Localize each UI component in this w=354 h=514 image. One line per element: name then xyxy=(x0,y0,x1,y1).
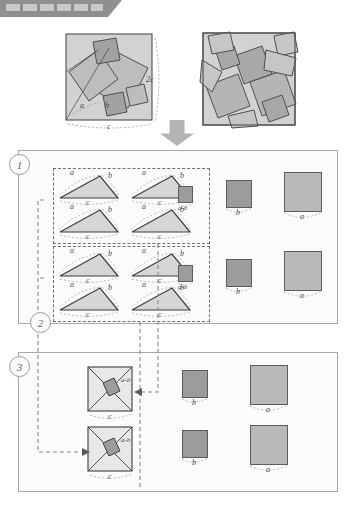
label-a: a xyxy=(266,466,270,474)
label-a: a xyxy=(70,203,74,211)
label-b: b xyxy=(108,284,112,292)
label-a: a xyxy=(70,247,74,255)
label-a: a xyxy=(70,169,74,177)
dissected-square-diagram: 2c c a b xyxy=(60,30,160,130)
label-b: b xyxy=(180,250,184,258)
label-b: b xyxy=(192,459,196,467)
label-b: b xyxy=(108,206,112,214)
label-b: b xyxy=(180,172,184,180)
label-a: a xyxy=(300,213,304,221)
label-leg-a: a xyxy=(80,102,84,110)
label-b: b xyxy=(192,399,196,407)
label-a-minus-b: a-b xyxy=(121,377,130,384)
composite-square-c-row-2: a-b c xyxy=(86,425,136,473)
pythagorean-tiling-pattern xyxy=(200,30,300,130)
label-b: b xyxy=(236,209,240,217)
label-b: b xyxy=(108,250,112,258)
label-a: a xyxy=(142,281,146,289)
label-a: a xyxy=(142,169,146,177)
label-a-minus-b: a-b xyxy=(178,205,187,212)
label-a: a xyxy=(142,247,146,255)
label-a: a xyxy=(300,292,304,300)
label-a: a xyxy=(142,203,146,211)
label-a-minus-b: a-b xyxy=(178,284,187,291)
label-c: c xyxy=(158,233,162,241)
label-b: b xyxy=(236,288,240,296)
down-arrow-icon xyxy=(160,120,194,146)
step-marker-2: 2 xyxy=(30,312,51,333)
step-marker-1: 1 xyxy=(9,154,30,175)
label-c: c xyxy=(86,311,90,319)
step-marker-3: 3 xyxy=(9,356,30,377)
label-c: c xyxy=(86,233,90,241)
label-side-2c: 2c xyxy=(146,76,154,84)
label-c: c xyxy=(108,413,112,421)
label-leg-b: b xyxy=(105,102,109,110)
triangle-1-3: a b c xyxy=(56,204,124,240)
label-b: b xyxy=(108,172,112,180)
label-a-minus-b: a-b xyxy=(121,437,130,444)
label-a: a xyxy=(266,406,270,414)
figure-canvas: 2c c a b 1 2 xyxy=(0,0,354,514)
label-side-c: c xyxy=(107,123,111,131)
composite-square-c-row-1: a-b c xyxy=(86,365,136,413)
triangle-2-1: a b c xyxy=(56,248,124,284)
triangle-2-3: a b c xyxy=(56,282,124,318)
label-a: a xyxy=(70,281,74,289)
label-c: c xyxy=(108,473,112,481)
triangle-1-1: a b c xyxy=(56,170,124,206)
redacted-title-bar xyxy=(0,0,122,17)
label-c: c xyxy=(158,311,162,319)
